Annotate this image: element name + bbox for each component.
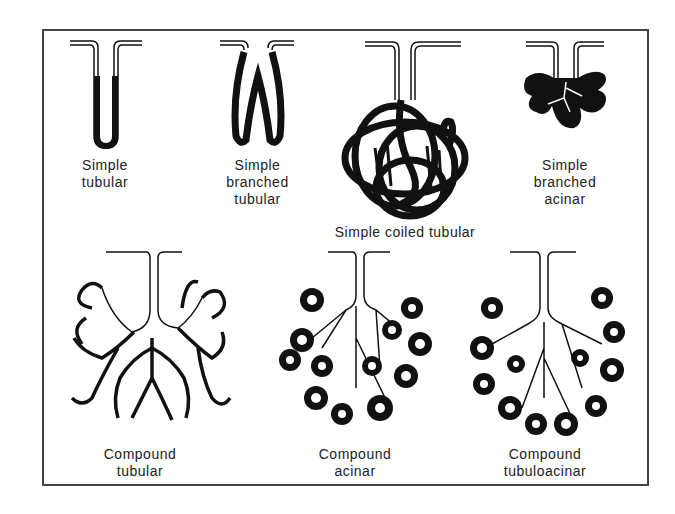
simple-branched-acinar-label: Simple branched acinar	[520, 157, 610, 208]
simple-branched-acinar-illustration	[518, 38, 628, 138]
compound-acinar-illustration	[272, 248, 447, 433]
compound-tubular-label: Compound tubular	[85, 446, 195, 480]
simple-coiled-tubular-label: Simple coiled tubular	[310, 224, 500, 241]
compound-tubuloacinar-label: Compound tubuloacinar	[480, 446, 610, 480]
simple-tubular-illustration	[68, 36, 148, 151]
simple-branched-tubular-illustration	[218, 36, 298, 151]
simple-coiled-tubular-illustration	[335, 38, 475, 223]
compound-acinar-label: Compound acinar	[300, 446, 410, 480]
simple-branched-tubular-label: Simple branched tubular	[210, 157, 305, 208]
compound-tubuloacinar-illustration	[462, 248, 637, 438]
simple-tubular-label: Simple tubular	[60, 157, 150, 191]
compound-tubular-illustration	[62, 248, 237, 433]
